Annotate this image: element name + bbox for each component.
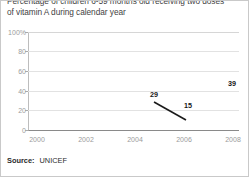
- plot-area: 29 15 39: [28, 32, 239, 131]
- data-label-29: 29: [150, 91, 158, 99]
- y-axis-label-0: 0: [2, 127, 26, 134]
- source-value: UNICEF: [40, 156, 68, 165]
- y-axis-label-80: 80: [2, 48, 26, 55]
- y-axis-label-20: 20: [2, 107, 26, 114]
- x-axis-label-2008: 2008: [215, 135, 249, 144]
- y-axis-label-100: 100%: [2, 29, 26, 36]
- x-axis-labels: 2000 2002 2004 2006 2008: [28, 135, 239, 149]
- x-axis-label-2004: 2004: [117, 135, 153, 144]
- chart-title: Percentage of children 6-59 months old r…: [7, 0, 245, 17]
- y-axis-label-60: 60: [2, 68, 26, 75]
- y-axis-labels: 100% 80 60 40 20 0: [1, 32, 26, 131]
- series-polyline: [154, 102, 186, 120]
- source-label: Source:: [7, 156, 35, 165]
- x-axis-label-2006: 2006: [166, 135, 202, 144]
- data-series-line: [28, 32, 239, 131]
- y-axis-label-40: 40: [2, 88, 26, 95]
- x-axis-label-2002: 2002: [68, 135, 104, 144]
- source-note: Source:UNICEF: [7, 156, 67, 165]
- chart-card: Percentage of children 6-59 months old r…: [0, 0, 249, 177]
- data-label-39: 39: [228, 80, 236, 88]
- data-label-15: 15: [184, 102, 192, 110]
- x-axis-label-2000: 2000: [19, 135, 55, 144]
